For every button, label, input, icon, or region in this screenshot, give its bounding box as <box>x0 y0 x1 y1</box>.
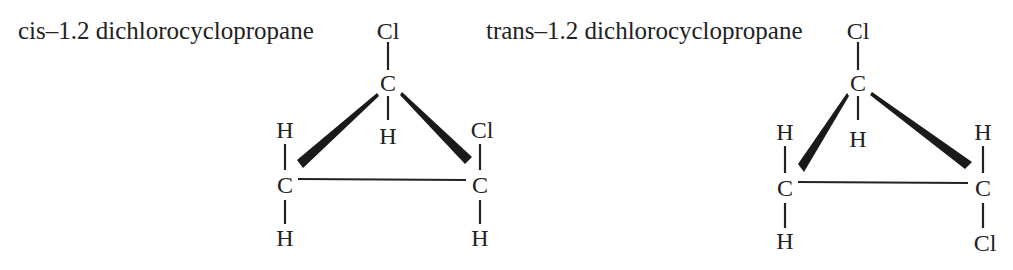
trans-right-bottom-chlorine: Cl <box>974 231 997 255</box>
trans-left-carbon: C <box>777 176 793 200</box>
trans-apex-carbon: C <box>850 71 866 95</box>
cis-right-bottom-hydrogen: H <box>471 226 488 250</box>
trans-wedges <box>798 92 972 172</box>
trans-title: trans–1.2 dichlorocyclopropane <box>486 18 803 43</box>
cis-apex-carbon: C <box>380 71 396 95</box>
cis-left-top-hydrogen: H <box>276 118 293 142</box>
trans-left-bottom-hydrogen: H <box>776 229 793 253</box>
cis-right-carbon: C <box>472 173 488 197</box>
trans-left-top-hydrogen: H <box>776 120 793 144</box>
cis-apex-chlorine: Cl <box>377 19 400 43</box>
cis-right-top-chlorine: Cl <box>471 118 494 142</box>
cis-left-carbon: C <box>277 173 293 197</box>
trans-apex-chlorine: Cl <box>847 19 870 43</box>
cis-left-bottom-hydrogen: H <box>276 226 293 250</box>
trans-apex-hydrogen: H <box>849 127 866 151</box>
trans-right-carbon: C <box>975 176 991 200</box>
stereoisomer-diagram: cis–1.2 dichlorocyclopropane Cl C H H C … <box>0 0 1013 270</box>
trans-bonds <box>785 42 983 228</box>
trans-right-top-hydrogen: H <box>974 120 991 144</box>
cis-apex-hydrogen: H <box>379 124 396 148</box>
cis-title: cis–1.2 dichlorocyclopropane <box>18 18 314 43</box>
